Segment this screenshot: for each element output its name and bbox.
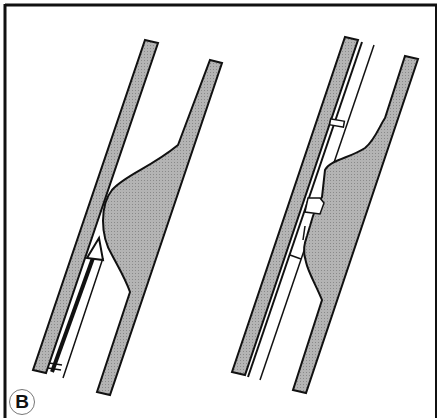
right-panel-lesion — [293, 56, 418, 393]
left-panel — [33, 40, 222, 395]
panel-label-badge: B — [9, 389, 35, 415]
lesion — [97, 60, 222, 395]
right-panel — [232, 37, 418, 393]
diagram-figure — [0, 0, 438, 418]
